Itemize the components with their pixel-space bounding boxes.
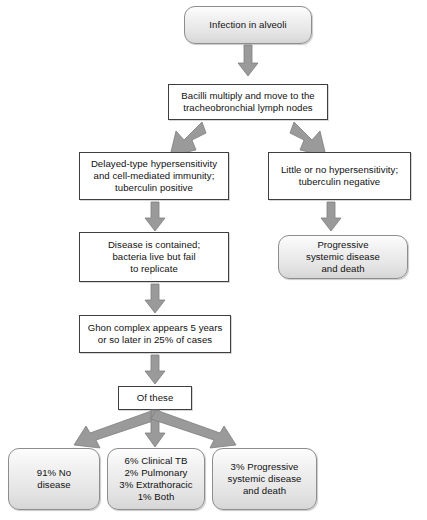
node-disease-is-contained-label: Disease is contained; bacteria live but … <box>104 239 204 276</box>
node-clinical-tb-outcome: 6% Clinical TB 2% Pulmonary 3% Extrathor… <box>107 448 205 510</box>
node-of-these-label: Of these <box>133 392 178 404</box>
node-progressive-outcome: 3% Progressive systemic disease and deat… <box>212 448 317 510</box>
flowchart-canvas: Infection in alveoli Bacilli multiply an… <box>0 0 427 520</box>
edge-ofthese-to-nodisease <box>62 410 162 450</box>
node-no-disease-outcome: 91% No disease <box>8 448 100 510</box>
node-bacilli-multiply-label: Bacilli multiply and move to the tracheo… <box>177 90 318 114</box>
edge-ghon-to-ofthese <box>143 355 167 385</box>
node-disease-is-contained: Disease is contained; bacteria live but … <box>79 232 229 282</box>
node-little-or-no-hypersensitivity: Little or no hypersensitivity; tuberculi… <box>268 152 411 200</box>
node-bacilli-multiply: Bacilli multiply and move to the tracheo… <box>168 84 328 120</box>
node-no-disease-outcome-label: 91% No disease <box>33 467 75 491</box>
node-progressive-systemic-disease-label: Progressive systemic disease and death <box>302 239 384 276</box>
node-ghon-complex-label: Ghon complex appears 5 years or so later… <box>84 322 227 346</box>
node-of-these: Of these <box>118 386 192 410</box>
node-ghon-complex: Ghon complex appears 5 years or so later… <box>79 315 231 353</box>
edge-little-to-progressive <box>319 202 343 232</box>
node-progressive-outcome-label: 3% Progressive systemic disease and deat… <box>224 461 306 498</box>
edge-alveoli-to-bacilli <box>236 45 260 77</box>
node-little-or-no-hypersensitivity-label: Little or no hypersensitivity; tuberculi… <box>277 164 402 188</box>
edge-ofthese-to-clinicaltb <box>143 410 167 448</box>
node-infection-in-alveoli-label: Infection in alveoli <box>205 19 290 31</box>
edge-ofthese-to-progressive <box>148 410 248 450</box>
edge-delayed-to-contained <box>143 202 167 232</box>
edge-contained-to-ghon <box>143 284 167 314</box>
node-delayed-type-hypersensitivity-label: Delayed-type hypersensitivity and cell-m… <box>87 158 221 195</box>
node-clinical-tb-outcome-label: 6% Clinical TB 2% Pulmonary 3% Extrathor… <box>115 455 196 504</box>
node-progressive-systemic-disease: Progressive systemic disease and death <box>278 235 408 279</box>
node-delayed-type-hypersensitivity: Delayed-type hypersensitivity and cell-m… <box>79 152 229 200</box>
node-infection-in-alveoli: Infection in alveoli <box>184 6 312 44</box>
